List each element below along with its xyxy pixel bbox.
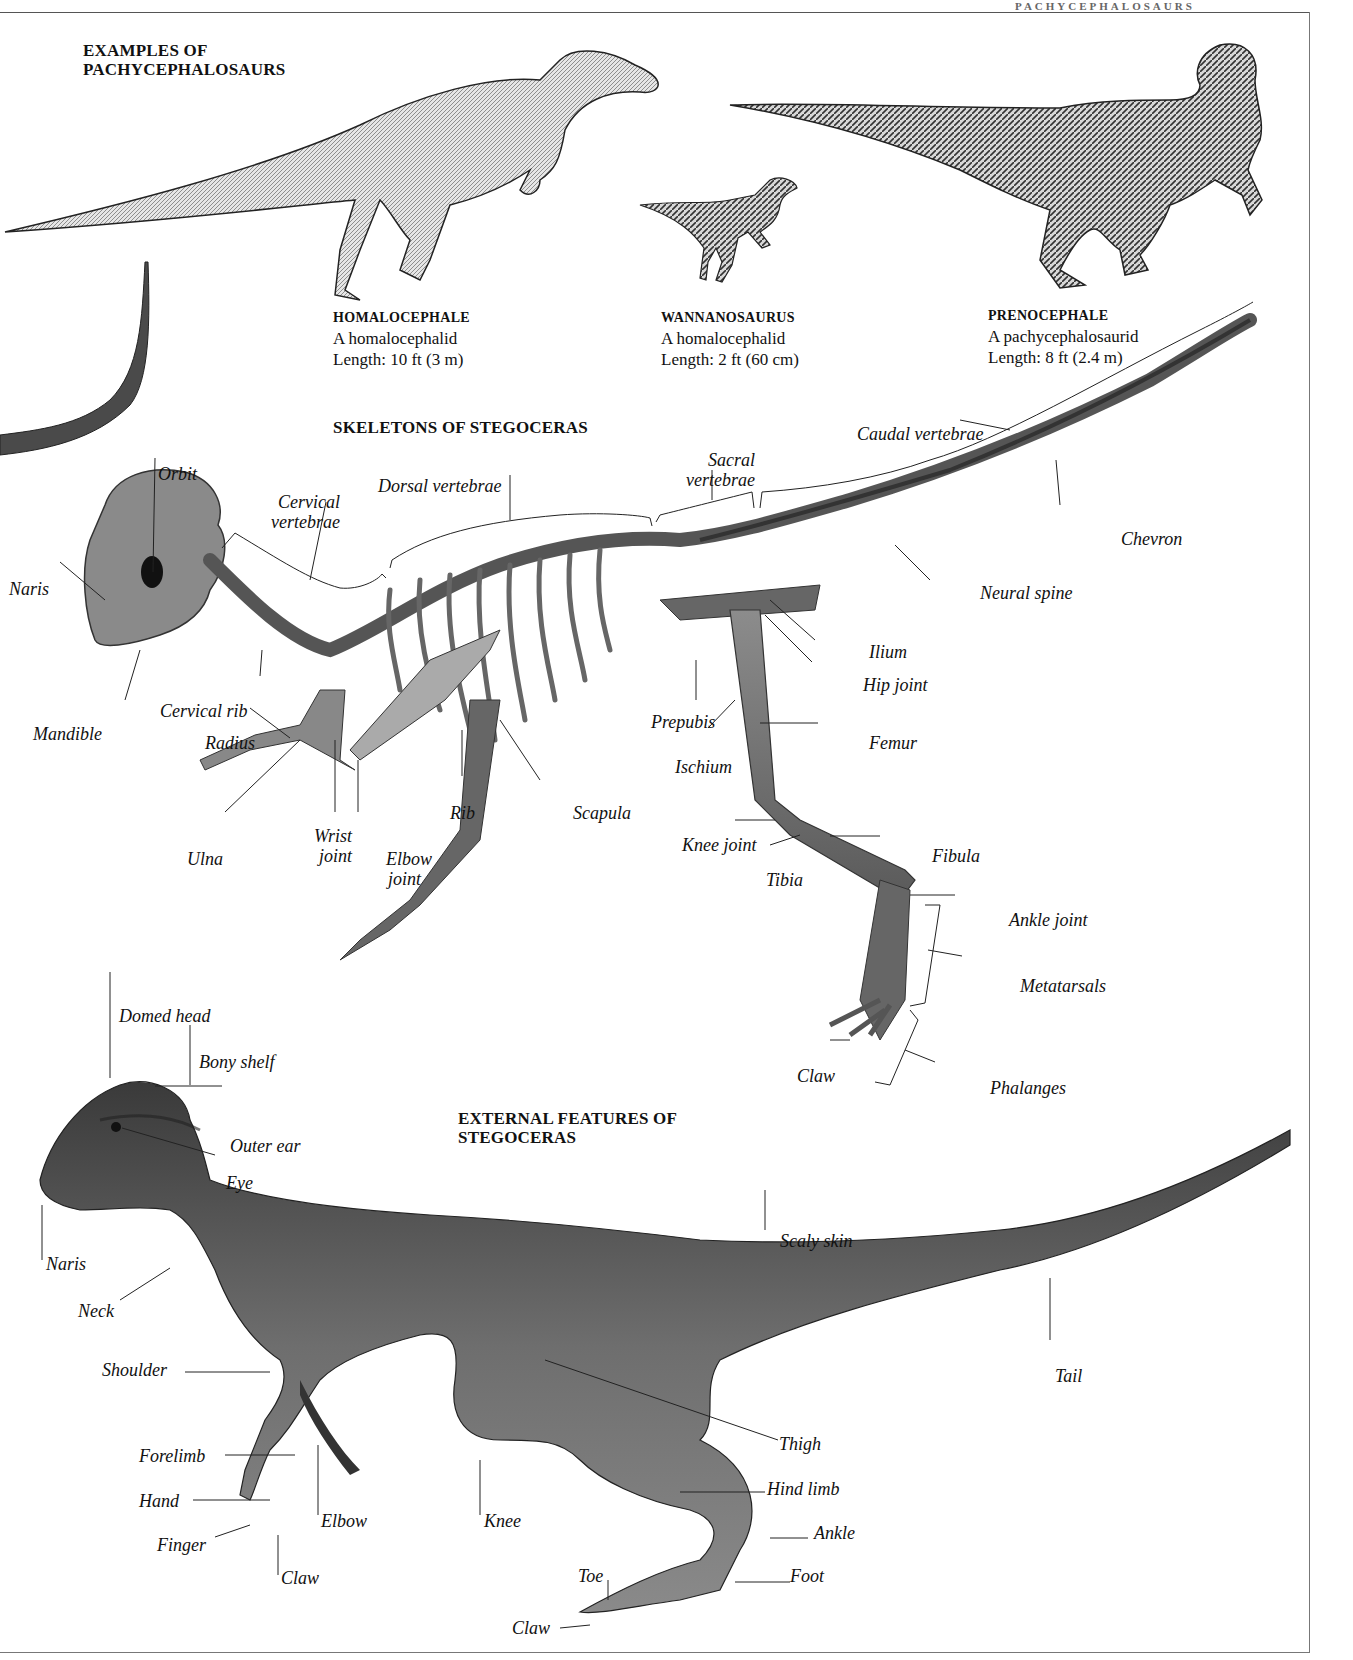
label-toe: Toe <box>578 1566 603 1586</box>
label-outer-ear: Outer ear <box>230 1136 301 1156</box>
label-claw-toe: Claw <box>512 1618 550 1638</box>
label-forelimb: Forelimb <box>139 1446 205 1466</box>
label-line: Sacral <box>660 450 755 470</box>
label-eye: Eye <box>226 1173 253 1193</box>
label-scaly-skin: Scaly skin <box>780 1231 852 1251</box>
species-length: Length: 10 ft (3 m) <box>333 349 470 370</box>
label-claw-hand: Claw <box>281 1568 319 1588</box>
prenocephale-illustration <box>730 44 1262 288</box>
label-chevron: Chevron <box>1121 529 1182 549</box>
label-foot: Foot <box>790 1566 824 1586</box>
label-radius: Radius <box>205 733 255 753</box>
label-cervical-rib: Cervical rib <box>160 701 248 721</box>
species-name: PRENOCEPHALE <box>988 305 1139 326</box>
label-neck: Neck <box>78 1301 114 1321</box>
label-cervical-vertebrae: Cervical vertebrae <box>250 492 340 532</box>
label-ankle-joint: Ankle joint <box>1009 910 1087 930</box>
label-shoulder: Shoulder <box>102 1360 167 1380</box>
caption-prenocephale: PRENOCEPHALE A pachycephalosaurid Length… <box>988 305 1139 368</box>
label-caudal-vertebrae: Caudal vertebrae <box>857 424 983 444</box>
external-title-line1: EXTERNAL FEATURES OF <box>458 1109 677 1128</box>
label-line: vertebrae <box>660 470 755 490</box>
examples-title: EXAMPLES OF PACHYCEPHALOSAURS <box>83 41 285 79</box>
label-domed-head: Domed head <box>119 1006 210 1026</box>
label-hip-joint: Hip joint <box>863 675 928 695</box>
label-phalanges: Phalanges <box>990 1078 1066 1098</box>
label-claw-skeleton: Claw <box>797 1066 835 1086</box>
label-naris-external: Naris <box>46 1254 86 1274</box>
label-line: Wrist <box>290 826 352 846</box>
label-fibula: Fibula <box>932 846 980 866</box>
label-ilium: Ilium <box>869 642 907 662</box>
species-type: A homalocephalid <box>661 328 799 349</box>
label-metatarsals: Metatarsals <box>1020 976 1106 996</box>
label-scapula: Scapula <box>573 803 631 823</box>
label-line: Cervical <box>250 492 340 512</box>
label-ischium: Ischium <box>675 757 732 777</box>
label-mandible: Mandible <box>33 724 102 744</box>
label-femur: Femur <box>869 733 917 753</box>
caption-wannanosaurus: WANNANOSAURUS A homalocephalid Length: 2… <box>661 307 799 370</box>
species-name: HOMALOCEPHALE <box>333 307 470 328</box>
skeleton-title: SKELETONS OF STEGOCERAS <box>333 418 588 437</box>
label-thigh: Thigh <box>779 1434 821 1454</box>
label-sacral-vertebrae: Sacral vertebrae <box>660 450 755 490</box>
label-elbow-joint: Elbow joint <box>386 849 432 889</box>
label-hand: Hand <box>139 1491 179 1511</box>
label-knee: Knee <box>484 1511 521 1531</box>
illustrations <box>0 0 1353 1660</box>
label-line: vertebrae <box>250 512 340 532</box>
label-wrist-joint: Wrist joint <box>290 826 352 866</box>
label-ulna: Ulna <box>187 849 223 869</box>
label-finger: Finger <box>157 1535 206 1555</box>
label-neural-spine: Neural spine <box>980 583 1073 603</box>
species-length: Length: 2 ft (60 cm) <box>661 349 799 370</box>
caption-homalocephale: HOMALOCEPHALE A homalocephalid Length: 1… <box>333 307 470 370</box>
label-naris-skeleton: Naris <box>9 579 49 599</box>
skeleton-illustration <box>85 320 1250 1040</box>
label-rib: Rib <box>450 803 475 823</box>
species-length: Length: 8 ft (2.4 m) <box>988 347 1139 368</box>
label-ankle: Ankle <box>814 1523 855 1543</box>
label-orbit: Orbit <box>158 464 197 484</box>
label-tail: Tail <box>1055 1366 1082 1386</box>
label-dorsal-vertebrae: Dorsal vertebrae <box>378 476 501 496</box>
species-type: A homalocephalid <box>333 328 470 349</box>
label-hind-limb: Hind limb <box>767 1479 840 1499</box>
label-elbow: Elbow <box>321 1511 367 1531</box>
wannanosaurus-illustration <box>640 178 797 282</box>
external-title: EXTERNAL FEATURES OF STEGOCERAS <box>458 1109 677 1147</box>
species-name: WANNANOSAURUS <box>661 307 799 328</box>
label-tibia: Tibia <box>766 870 803 890</box>
label-prepubis: Prepubis <box>651 712 715 732</box>
homalocephale-illustration <box>5 51 658 300</box>
label-line: joint <box>386 869 432 889</box>
examples-title-line1: EXAMPLES OF <box>83 41 285 60</box>
tail-fragment-illustration <box>0 262 149 455</box>
examples-title-line2: PACHYCEPHALOSAURS <box>83 60 285 79</box>
external-title-line2: STEGOCERAS <box>458 1128 677 1147</box>
label-knee-joint: Knee joint <box>682 835 757 855</box>
label-bony-shelf: Bony shelf <box>199 1052 274 1072</box>
label-line: Elbow <box>386 849 432 869</box>
label-line: joint <box>290 846 352 866</box>
species-type: A pachycephalosaurid <box>988 326 1139 347</box>
